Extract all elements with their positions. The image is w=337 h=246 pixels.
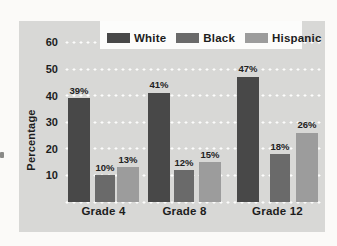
y-tick-50: 50 [28,62,58,76]
legend-label-hispanic: Hispanic [272,32,322,44]
bar-value-label: 39% [61,85,97,96]
legend: White Black Hispanic [100,21,302,49]
legend-swatch-hispanic [245,33,268,43]
bar-black-grade12 [270,154,290,202]
x-category-grade4: Grade 4 [64,205,144,217]
legend-item-black: Black [176,32,235,44]
bar-hispanic-grade8 [199,162,221,202]
bar-white-grade4 [68,98,90,202]
y-tick-20: 20 [28,142,58,156]
bar-white-grade8 [148,93,170,202]
scan-artifact [0,152,4,158]
figure: White Black Hispanic Percentage 10203040… [0,0,337,246]
bar-value-label: 47% [230,63,266,74]
y-tick-30: 30 [28,115,58,129]
bar-value-label: 13% [110,154,146,165]
legend-swatch-black [176,33,199,43]
gridline-50 [64,68,322,71]
legend-item-hispanic: Hispanic [245,32,322,44]
x-category-grade12: Grade 12 [238,205,318,217]
bar-value-label: 15% [192,149,228,160]
x-category-grade8: Grade 8 [145,205,225,217]
bar-value-label: 26% [289,119,325,130]
bar-white-grade12 [237,77,259,202]
y-tick-60: 60 [28,35,58,49]
gridline-30 [64,121,322,124]
legend-item-white: White [107,32,166,44]
bar-black-grade4 [95,175,115,202]
legend-label-white: White [134,32,166,44]
y-tick-10: 10 [28,168,58,182]
legend-label-black: Black [203,32,235,44]
gridline-40 [64,94,322,97]
bar-value-label: 41% [141,79,177,90]
bar-black-grade8 [174,170,194,202]
bar-value-label: 18% [262,141,298,152]
bar-hispanic-grade12 [296,133,318,202]
legend-swatch-white [107,33,130,43]
y-tick-40: 40 [28,89,58,103]
